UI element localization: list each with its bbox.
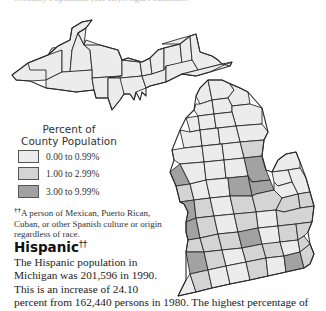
- legend-swatch-low: [18, 150, 39, 163]
- body-line: Michigan was 201,596 in 1990.: [14, 269, 326, 282]
- footnote-marker: ††: [14, 206, 21, 214]
- legend-label-mid: 1.00 to 2.99%: [46, 169, 99, 179]
- legend-label-high: 3.00 to 9.99%: [46, 187, 99, 197]
- body-line: The Hispanic population in: [14, 256, 326, 269]
- footnote: ††A person of Mexican, Puerto Rican, Cub…: [14, 205, 174, 240]
- body-line: This is an increase of 24.10: [14, 283, 326, 296]
- legend-item-low: 0.00 to 0.99%: [18, 150, 99, 163]
- legend-swatch-high: [18, 185, 39, 198]
- section-heading: Hispanic††: [14, 239, 87, 255]
- footnote-text: A person of Mexican, Puerto Rican, Cuban…: [14, 208, 162, 239]
- legend-title-line2: County Population: [14, 135, 124, 147]
- legend-item-high: 3.00 to 9.99%: [18, 185, 99, 198]
- legend-title-line1: Percent of: [14, 123, 124, 135]
- legend-item-mid: 1.00 to 2.99%: [18, 167, 99, 180]
- legend-title: Percent of County Population: [14, 123, 124, 147]
- body-line: percent from 162,440 persons in 1980. Th…: [14, 296, 326, 309]
- legend-label-low: 0.00 to 0.99%: [46, 152, 99, 162]
- body-paragraph: The Hispanic population in Michigan was …: [14, 256, 326, 309]
- legend-swatch-mid: [18, 167, 39, 180]
- heading-title: Hispanic: [14, 239, 79, 255]
- heading-marker: ††: [79, 240, 87, 249]
